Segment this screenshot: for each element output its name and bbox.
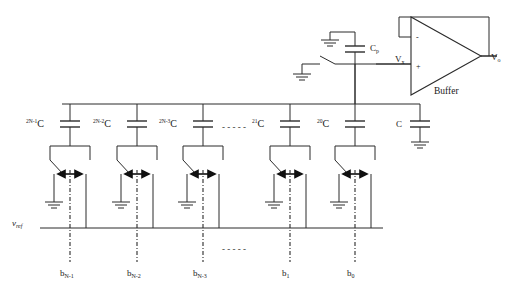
bit-subscript: 1 — [287, 273, 290, 279]
top-ellipsis: - - - - - — [222, 122, 246, 132]
svg-text:Vx: Vx — [395, 54, 405, 65]
bit-label: bN-3 — [193, 268, 207, 279]
reset-switch-to-ground[interactable] — [293, 56, 411, 80]
bit-subscript: N-3 — [198, 273, 207, 279]
cap-unit: C — [104, 118, 111, 129]
vref-subscript: ref — [16, 223, 24, 229]
bit-subscript: N-1 — [65, 273, 74, 279]
bit-label: bN-2 — [127, 268, 141, 279]
buffer-inverting-label: - — [416, 33, 419, 42]
cap-unit: C — [37, 118, 44, 129]
cap-exponent: N-1 — [29, 118, 38, 124]
cap-exponent: N-2 — [96, 118, 105, 124]
svg-text:Vo: Vo — [491, 52, 501, 63]
buffer-minus-sign: - — [416, 33, 419, 42]
termination-capacitor-branch — [410, 104, 430, 148]
dac-column: 2N-3C bN-3 — [159, 104, 223, 279]
dac-column: 2N-1C bN-1 — [26, 104, 90, 279]
cap-unit: C — [258, 118, 265, 129]
vx-node-label: Vx — [395, 54, 405, 65]
bit-label: b0 — [347, 268, 355, 279]
termination-cap-label: C — [396, 119, 402, 129]
dac-column: 2N-2C bN-2 — [93, 104, 157, 279]
bit-subscript: N-2 — [132, 273, 141, 279]
buffer-noninverting-label: + — [416, 62, 421, 71]
bit-label: b1 — [282, 268, 290, 279]
dac-column: 21C b1 — [252, 104, 310, 279]
capacitor-value-label: 2N-1C — [26, 118, 44, 129]
circuit-diagram-canvas: - + Buffer Vx Vo Cp — [0, 0, 513, 293]
capacitor-value-label: 21C — [252, 118, 265, 129]
parasitic-capacitor-branch — [321, 32, 365, 104]
bit-subscript: 0 — [352, 273, 355, 279]
capacitor-value-label: 20C — [317, 118, 330, 129]
cap-unit: C — [323, 118, 330, 129]
svg-text:vref: vref — [12, 218, 24, 229]
capacitor-value-label: 2N-3C — [159, 118, 177, 129]
vo-node-label: Vo — [491, 52, 501, 63]
cap-unit: C — [170, 118, 177, 129]
dac-column: 20C b0 — [317, 104, 375, 279]
cap-exponent: N-3 — [162, 118, 171, 124]
parasitic-cap-label: Cp — [370, 43, 379, 54]
cp-subscript: p — [376, 48, 379, 54]
bit-label: bN-1 — [60, 268, 74, 279]
buffer-plus-sign: + — [416, 62, 421, 71]
svg-text:Cp: Cp — [370, 43, 379, 54]
buffer-name-label: Buffer — [434, 86, 459, 96]
vo-subscript: o — [498, 57, 501, 63]
vref-label: vref — [12, 218, 24, 229]
bottom-ellipsis: - - - - - — [222, 244, 246, 254]
capacitor-value-label: 2N-2C — [93, 118, 111, 129]
